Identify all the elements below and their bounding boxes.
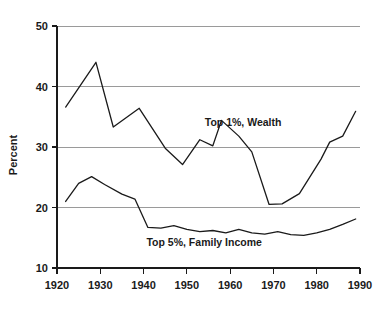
y-tick-label-40: 40: [36, 81, 48, 93]
line-chart: 1020304050 19201930194019501960197019801…: [0, 0, 376, 321]
y-tick-label-50: 50: [36, 20, 48, 32]
series-annotation-0: Top 1%, Wealth: [205, 116, 282, 128]
series-line-0: [66, 62, 356, 204]
x-tick-label-1990: 1990: [348, 279, 372, 291]
y-tick-label-30: 30: [36, 141, 48, 153]
chart-container: 1020304050 19201930194019501960197019801…: [0, 0, 376, 321]
x-tick-label-1920: 1920: [45, 279, 69, 291]
y-axis-title: Percent: [7, 134, 19, 175]
x-axis-tick-labels: 19201930194019501960197019801990: [45, 279, 372, 291]
x-tick-label-1980: 1980: [304, 279, 328, 291]
x-tick-label-1960: 1960: [218, 279, 242, 291]
y-tick-label-20: 20: [36, 202, 48, 214]
y-tick-label-10: 10: [36, 262, 48, 274]
x-tick-label-1970: 1970: [261, 279, 285, 291]
series-line-1: [66, 177, 356, 236]
x-tick-label-1930: 1930: [88, 279, 112, 291]
data-series-lines: [66, 62, 356, 235]
y-axis-tick-labels: 1020304050: [36, 20, 48, 274]
series-annotation-1: Top 5%, Family Income: [146, 236, 261, 248]
x-tick-label-1950: 1950: [175, 279, 199, 291]
x-tick-label-1940: 1940: [131, 279, 155, 291]
